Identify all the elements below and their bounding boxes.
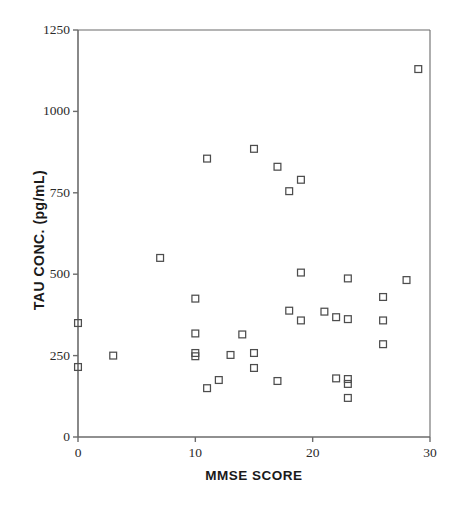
x-tick-label: 10 (175, 446, 215, 460)
x-tick-label: 20 (293, 446, 333, 460)
x-axis-title: MMSE SCORE (78, 468, 430, 483)
y-axis-title: TAU CONC. (pg/mL) (26, 90, 52, 390)
x-tick-label: 30 (410, 446, 450, 460)
x-tick-label: 0 (58, 446, 98, 460)
scatter-plot-figure: 025050075010001250 0102030 TAU CONC. (pg… (0, 0, 461, 506)
x-axis-tick-labels: 0102030 (0, 0, 461, 506)
